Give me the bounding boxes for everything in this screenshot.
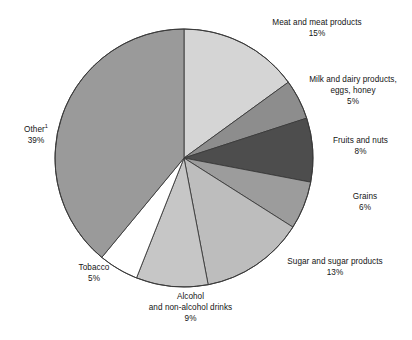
- slice-label-line: eggs, honey: [294, 85, 412, 96]
- slice-label-milk-dairy-eggs-honey: Milk and dairy products, eggs, honey 5%: [294, 74, 412, 108]
- slice-value: 13%: [258, 267, 412, 278]
- slice-value: 6%: [318, 202, 412, 213]
- footnote-marker: 1: [45, 123, 48, 129]
- slice-label-grains: Grains 6%: [318, 191, 412, 213]
- slice-label-line-with-footnote: Other1: [8, 124, 64, 135]
- slice-label-line: Meat and meat products: [224, 17, 410, 28]
- slice-label-alcohol-and-non-alcohol-drinks: Alcohol and non-alcohol drinks 9%: [113, 291, 268, 325]
- slice-label-tobacco: Tobacco 5%: [57, 262, 131, 284]
- pie-slice-group: [55, 29, 313, 287]
- slice-label-line: and non-alcohol drinks: [113, 302, 268, 313]
- pie-chart-canvas: [0, 0, 412, 340]
- slice-label-sugar-and-sugar-products: Sugar and sugar products 13%: [258, 256, 412, 278]
- slice-label-line: Tobacco: [57, 262, 131, 273]
- slice-label-other: Other1 39%: [8, 124, 64, 146]
- slice-label-line: Milk and dairy products,: [294, 74, 412, 85]
- slice-label-line: Sugar and sugar products: [258, 256, 412, 267]
- slice-value: 15%: [224, 28, 410, 39]
- slice-label-line: Grains: [318, 191, 412, 202]
- slice-label-text: Other: [24, 125, 45, 134]
- slice-value: 39%: [8, 135, 64, 146]
- slice-value: 5%: [57, 273, 131, 284]
- slice-value: 9%: [113, 313, 268, 324]
- slice-label-fruits-and-nuts: Fruits and nuts 8%: [309, 135, 412, 157]
- pie-chart: Meat and meat products 15% Milk and dair…: [0, 0, 412, 340]
- slice-label-line: Fruits and nuts: [309, 135, 412, 146]
- slice-label-line: Alcohol: [113, 291, 268, 302]
- slice-value: 5%: [294, 96, 412, 107]
- slice-label-meat-and-meat-products: Meat and meat products 15%: [224, 17, 410, 39]
- slice-value: 8%: [309, 146, 412, 157]
